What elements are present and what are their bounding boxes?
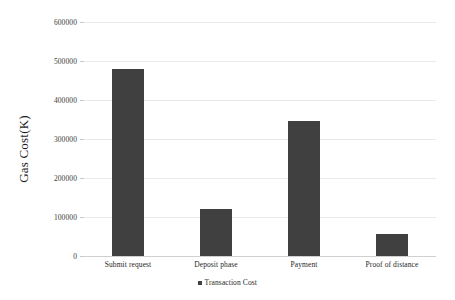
y-axis-tick-label: 100000: [54, 213, 77, 222]
x-axis-label: Payment: [291, 260, 318, 269]
y-axis-tick-label: 500000: [54, 57, 77, 66]
y-axis-tick-label: 200000: [54, 174, 77, 183]
y-axis-tick: [80, 256, 84, 257]
legend-label: Transaction Cost: [205, 278, 257, 287]
bar: [288, 121, 320, 256]
bar: [376, 234, 408, 256]
y-axis-tick-label: 600000: [54, 18, 77, 27]
legend-item-transaction-cost: Transaction Cost: [198, 278, 257, 287]
gridline: [84, 22, 436, 23]
bar: [200, 209, 232, 256]
x-axis-line: [84, 256, 436, 257]
y-axis-tick: [80, 178, 84, 179]
chart-legend: Transaction Cost: [0, 278, 455, 287]
y-axis-tick-label: 300000: [54, 135, 77, 144]
y-axis-tick: [80, 139, 84, 140]
x-axis-label: Deposit phase: [194, 260, 238, 269]
y-axis-tick: [80, 61, 84, 62]
y-axis-tick: [80, 100, 84, 101]
gridline: [84, 61, 436, 62]
bar-chart: Gas Cost(K) 0100000200000300000400000500…: [0, 0, 455, 300]
bar: [112, 69, 144, 256]
x-axis-label: Proof of distance: [366, 260, 419, 269]
legend-swatch-icon: [198, 281, 202, 285]
y-axis-tick-label: 0: [73, 252, 77, 261]
y-axis-tick: [80, 22, 84, 23]
y-axis-tick-label: 400000: [54, 96, 77, 105]
y-axis-tick: [80, 217, 84, 218]
x-axis-label: Submit request: [105, 260, 152, 269]
plot-area: 0100000200000300000400000500000600000 Su…: [84, 22, 436, 256]
y-axis-title: Gas Cost(K): [16, 19, 32, 279]
